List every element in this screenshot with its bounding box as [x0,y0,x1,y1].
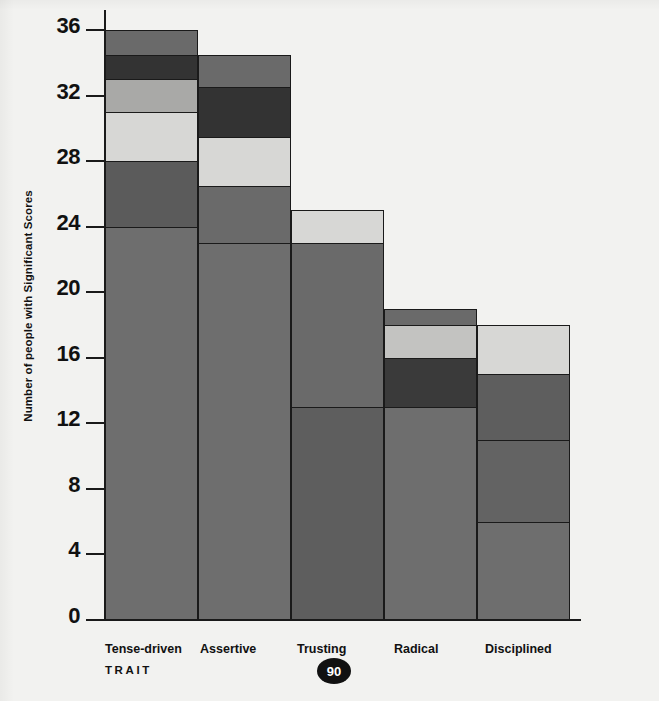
y-axis-tick [86,553,104,555]
bar-segment[interactable] [198,243,291,620]
bar-tense-driven[interactable] [105,30,198,620]
x-axis-label-assertive: Assertive [200,642,256,656]
y-axis-tick-label: 24 [20,212,80,234]
y-axis-tick [86,291,104,293]
y-axis-tick-label: 16 [20,343,80,365]
y-axis-tick-label-wrap: 4 [20,539,80,561]
y-axis-tick [86,357,104,359]
y-axis-tick-label-wrap: 8 [20,474,80,496]
y-axis-tick [86,422,104,424]
y-axis-tick [86,619,104,621]
y-axis-tick-label: 0 [20,605,80,627]
bar-segment[interactable] [477,325,570,374]
bar-segment[interactable] [291,210,384,243]
bar-segment[interactable] [105,30,198,55]
bar-assertive[interactable] [198,30,291,620]
bar-segment[interactable] [384,325,477,358]
bar-segment[interactable] [477,374,570,440]
y-axis-tick-label: 28 [20,146,80,168]
bar-segment[interactable] [291,243,384,407]
y-axis-tick [86,226,104,228]
bar-radical[interactable] [384,30,477,620]
page-number-badge: 90 [317,658,351,684]
y-axis-tick-label: 20 [20,277,80,299]
y-axis-tick [86,160,104,162]
bar-segment[interactable] [477,440,570,522]
bar-segment[interactable] [105,112,198,161]
x-axis-label-trusting: Trusting [297,642,346,656]
bar-segment[interactable] [105,79,198,112]
x-axis-note: TRAIT [105,664,152,676]
chart-container: Number of people with Significant Scores… [0,0,659,701]
y-axis-tick-label: 32 [20,81,80,103]
y-axis-tick-label-wrap: 32 [20,81,80,103]
bar-segment[interactable] [477,522,570,620]
bar-segment[interactable] [105,227,198,620]
y-axis-tick-label-wrap: 0 [20,605,80,627]
bar-segment[interactable] [384,407,477,620]
bar-segment[interactable] [384,309,477,325]
bar-trusting[interactable] [291,30,384,620]
bar-segment[interactable] [105,161,198,227]
y-axis-tick-label: 8 [20,474,80,496]
bar-segment[interactable] [291,407,384,620]
bar-disciplined[interactable] [477,30,570,620]
y-axis-tick [86,488,104,490]
y-axis-tick-label-wrap: 36 [20,15,80,37]
y-axis-tick-label-wrap: 16 [20,343,80,365]
y-axis-tick-label: 36 [20,15,80,37]
x-axis-label-radical: Radical [394,642,438,656]
bar-segment[interactable] [198,87,291,136]
bar-segment[interactable] [198,137,291,186]
y-axis-tick-label-wrap: 24 [20,212,80,234]
y-axis-tick [86,29,104,31]
bar-segment[interactable] [198,55,291,88]
bar-segment[interactable] [105,55,198,80]
y-axis-tick-label: 12 [20,408,80,430]
plot-area [105,30,568,620]
x-axis-label-tense-driven: Tense-driven [105,642,182,656]
y-axis-tick-label: 4 [20,539,80,561]
x-axis-label-disciplined: Disciplined [485,642,552,656]
y-axis-tick [86,95,104,97]
y-axis-tick-label-wrap: 12 [20,408,80,430]
y-axis-tick-label-wrap: 20 [20,277,80,299]
bar-segment[interactable] [198,186,291,243]
bar-segment[interactable] [384,358,477,407]
y-axis-tick-label-wrap: 28 [20,146,80,168]
